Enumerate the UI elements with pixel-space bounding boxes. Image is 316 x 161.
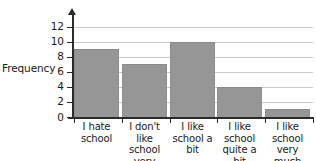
x-axis-label: I like school quite a bit — [217, 121, 262, 161]
bar-chart-figure: Frequency 024681012 I hate schoolI don't… — [0, 0, 316, 161]
x-tick-mark — [313, 119, 314, 123]
y-tick-label: 8 — [12, 51, 64, 62]
bar — [170, 42, 215, 117]
y-axis-line — [72, 13, 74, 118]
y-axis-tick-group: 024681012 — [0, 0, 72, 161]
x-axis-labels: I hate schoolI don't like school very mu… — [74, 121, 313, 161]
x-axis-line — [68, 117, 314, 119]
y-tick-label: 2 — [12, 96, 64, 107]
x-axis-label: I like school very much — [265, 121, 310, 161]
bar — [217, 87, 262, 117]
y-tick-label: 4 — [12, 81, 64, 92]
bars-group — [74, 19, 313, 117]
x-axis-label: I don't like school very much — [122, 121, 167, 161]
x-axis-label: I hate school — [74, 121, 119, 144]
y-tick-label: 6 — [12, 66, 64, 77]
bar — [265, 109, 310, 117]
y-tick-label: 12 — [12, 21, 64, 32]
y-axis-arrow-icon — [68, 8, 76, 15]
bar — [122, 64, 167, 117]
y-tick-label: 0 — [12, 112, 64, 123]
y-tick-label: 10 — [12, 36, 64, 47]
x-axis-label: I like school a bit — [170, 121, 215, 156]
plot-area — [74, 19, 313, 117]
bar — [74, 49, 119, 117]
